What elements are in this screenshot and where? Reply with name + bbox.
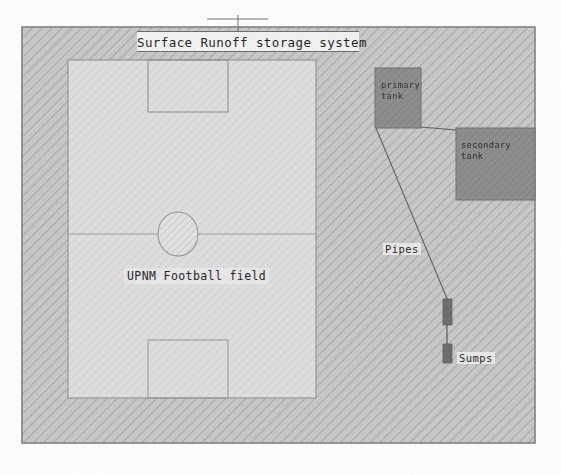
center-circle (158, 212, 198, 256)
secondary-tank-label: secondarytank (461, 140, 511, 162)
primary-tank-label: primarytank (381, 80, 420, 102)
page-title: Surface Runoff storage system (137, 31, 359, 52)
site-plan-svg (0, 0, 561, 475)
sump-upper (443, 299, 452, 325)
drawing-canvas: Surface Runoff storage system UPNM Footb… (0, 0, 561, 475)
secondary-tank (456, 128, 535, 200)
sump-lower (443, 344, 452, 363)
football-field-label: UPNM Football field (124, 268, 269, 284)
primary-tank-label-line1: primary (381, 80, 420, 90)
secondary-tank-label-line2: tank (461, 151, 511, 162)
pipes-label: Pipes (383, 243, 421, 255)
sumps-label: Sumps (457, 352, 495, 364)
primary-tank-label-line2: tank (381, 91, 420, 102)
secondary-tank-label-line1: secondary (461, 140, 511, 150)
